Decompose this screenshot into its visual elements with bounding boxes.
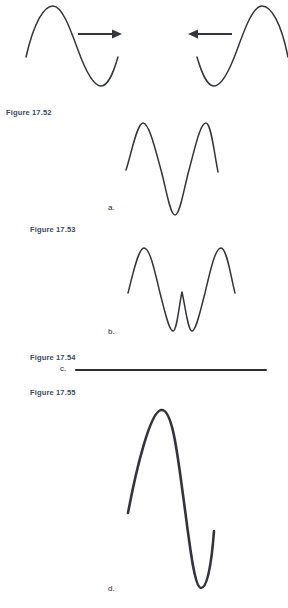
figure-caption-17-55: Figure 17.55	[30, 388, 76, 397]
figure-page: Figure 17.52 Figure 17.53 Figure 17.54 F…	[0, 0, 288, 608]
figure-caption-17-54: Figure 17.54	[30, 353, 76, 362]
option-label-c: c.	[60, 364, 66, 373]
waveform-option-b	[128, 248, 235, 331]
option-label-d: d.	[108, 584, 115, 593]
right-arrow-icon	[78, 30, 122, 39]
left-pulse-waveform	[26, 6, 118, 86]
figure-caption-17-52: Figure 17.52	[6, 108, 52, 117]
waveform-option-d	[128, 410, 214, 588]
waveform-option-a	[126, 123, 218, 215]
left-arrow-icon	[188, 30, 232, 39]
figures-canvas	[0, 0, 288, 608]
option-label-a: a.	[108, 203, 115, 212]
option-label-b: b.	[108, 327, 115, 336]
figure-caption-17-53: Figure 17.53	[30, 225, 76, 234]
right-pulse-waveform	[197, 6, 288, 86]
